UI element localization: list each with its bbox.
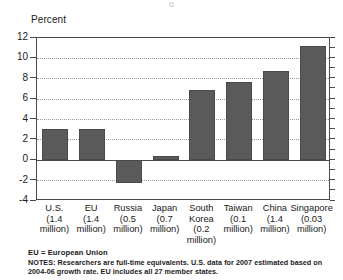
right-axis-tick xyxy=(330,77,335,78)
x-axis-label-line: million) xyxy=(290,224,333,235)
y-axis-tick xyxy=(30,37,36,38)
right-axis-tick xyxy=(330,138,335,139)
bar xyxy=(42,129,68,161)
right-axis-tick xyxy=(330,179,335,180)
y-axis-tick-label: 8 xyxy=(4,73,28,83)
legend-abbreviation-note: EU = European Union xyxy=(28,248,108,257)
right-axis-tick xyxy=(330,169,335,170)
x-axis-category-label: Singapore(0.03million) xyxy=(290,203,333,235)
y-axis-tick xyxy=(30,138,36,139)
x-axis-category-labels: U.S.(1.4million)EU(1.4million)Russia(0.5… xyxy=(36,203,330,251)
right-axis-tick xyxy=(330,200,335,201)
cropped-title-sliver: g xyxy=(0,0,343,7)
bar xyxy=(116,160,142,182)
y-axis-tick xyxy=(30,77,36,78)
bar xyxy=(263,71,289,161)
plot-inner xyxy=(37,38,329,199)
right-axis-tick xyxy=(330,87,335,88)
y-axis-tick xyxy=(30,159,36,160)
y-axis-unit-label: Percent xyxy=(31,14,66,25)
right-axis-tick xyxy=(330,128,335,129)
y-axis-tick-label: 12 xyxy=(4,32,28,42)
bar xyxy=(153,156,179,160)
y-axis-tick-label: 10 xyxy=(4,52,28,62)
right-axis-tick xyxy=(330,98,335,99)
right-axis-tick xyxy=(330,37,335,38)
x-axis-label-line: Singapore xyxy=(290,203,333,214)
y-axis-tick-label: 6 xyxy=(4,93,28,103)
gridline xyxy=(37,180,329,181)
y-axis-tick-label: 0 xyxy=(4,154,28,164)
bar xyxy=(79,129,105,161)
right-axis-tick xyxy=(330,118,335,119)
bar xyxy=(189,90,215,160)
y-axis-tick xyxy=(30,118,36,119)
bar xyxy=(300,46,326,160)
x-axis-label-line: (0.03 xyxy=(290,214,333,225)
y-axis-tick xyxy=(30,57,36,58)
right-axis-tick xyxy=(330,67,335,68)
gridline xyxy=(37,58,329,59)
right-axis-tick xyxy=(330,47,335,48)
bar xyxy=(226,82,252,160)
y-axis-tick-label: 4 xyxy=(4,114,28,124)
plot-area xyxy=(36,37,330,200)
y-axis-tick-label: -4 xyxy=(4,195,28,205)
chart-figure: g Percent -4-2024681012 U.S.(1.4million)… xyxy=(0,0,343,280)
y-axis-tick xyxy=(30,98,36,99)
right-axis-tick xyxy=(330,189,335,190)
figure-notes: NOTES: Researchers are full-time equival… xyxy=(28,259,334,276)
right-axis-tick xyxy=(330,159,335,160)
right-axis-tick xyxy=(330,149,335,150)
y-axis-tick-label: -2 xyxy=(4,175,28,185)
y-axis-tick-label: 2 xyxy=(4,134,28,144)
right-axis-tick xyxy=(330,57,335,58)
right-axis-tick xyxy=(330,108,335,109)
x-axis-label-line: million) xyxy=(180,235,223,246)
y-axis-tick xyxy=(30,179,36,180)
y-axis-tick xyxy=(30,200,36,201)
